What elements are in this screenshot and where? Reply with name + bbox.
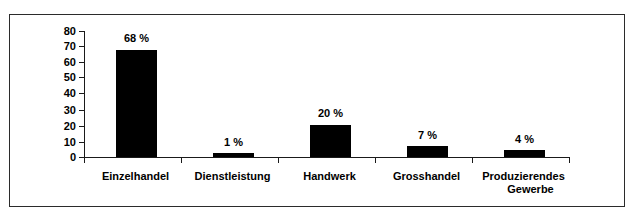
y-tick-label: 70 [52,41,76,52]
x-axis-line [84,157,570,158]
y-tick-mark [79,93,84,94]
x-tick-mark [569,158,570,163]
y-axis-line [84,31,85,158]
x-tick-mark [181,158,182,163]
bar-value-label: 68 % [96,33,177,44]
bar-produzierendes-gewerbe[interactable] [504,150,545,157]
y-tick-mark [79,31,84,32]
x-tick-mark [375,158,376,163]
bar-value-label: 7 % [387,130,468,141]
x-tick-mark [278,158,279,163]
x-category-label-grosshandel: Grosshandel [378,170,475,183]
bar-value-label: 1 % [193,137,274,148]
y-tick-label: 80 [52,26,76,37]
bar-einzelhandel[interactable] [116,50,157,157]
bar-value-label: 4 % [484,134,565,145]
bar-value-label: 20 % [290,108,371,119]
y-tick-label: 40 [52,88,76,99]
y-tick-label: 20 [52,121,76,132]
y-tick-mark [79,110,84,111]
plot-area: 80 70 60 50 40 30 20 10 0 68 % [0,0,637,220]
y-tick-label: 30 [52,105,76,116]
x-category-label-einzelhandel: Einzelhandel [87,170,184,183]
y-tick-label: 10 [52,137,76,148]
y-tick-mark [79,77,84,78]
y-tick-mark [79,46,84,47]
x-category-label-dienstleistung: Dienstleistung [184,170,281,183]
x-category-label-handwerk: Handwerk [281,170,378,183]
x-tick-mark [84,158,85,163]
y-tick-label: 60 [52,57,76,68]
x-category-label-line-2: Gewerbe [475,183,572,196]
y-tick-label: 50 [52,72,76,83]
x-category-label-line-1: Produzierendes [482,170,565,182]
y-tick-mark [79,62,84,63]
y-tick-mark [79,142,84,143]
y-tick-mark [79,126,84,127]
bar-handwerk[interactable] [310,125,351,157]
bar-dienstleistung[interactable] [213,153,254,157]
bar-grosshandel[interactable] [407,146,448,157]
chart-figure: 80 70 60 50 40 30 20 10 0 68 % [0,0,637,220]
x-category-label-produzierendes-gewerbe: Produzierendes Gewerbe [475,170,572,196]
x-tick-mark [472,158,473,163]
y-tick-label: 0 [52,152,76,163]
